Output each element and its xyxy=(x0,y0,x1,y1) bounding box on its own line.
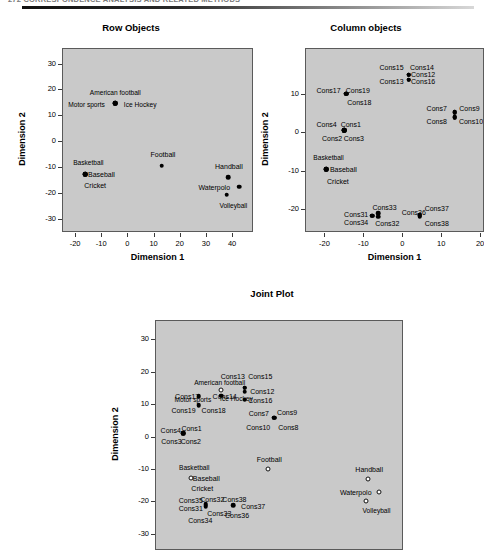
x-axis-label: Dimension 1 xyxy=(305,252,484,262)
x-tick-label: -10 xyxy=(348,239,378,248)
y-tick-mark xyxy=(151,372,155,373)
data-point xyxy=(181,431,186,436)
y-tick-mark xyxy=(58,219,62,220)
y-tick-mark xyxy=(301,132,305,133)
chart-row-objects: Row ObjectsAmerican footballIce HockeyMo… xyxy=(0,22,262,270)
data-point xyxy=(243,389,248,394)
data-point-label: Cons37 xyxy=(425,205,449,212)
data-point xyxy=(377,490,382,495)
data-point xyxy=(197,403,202,408)
data-point-label: Cons8 xyxy=(278,424,298,431)
data-point-label: Basketball xyxy=(179,464,209,471)
data-point-label: Cons10 xyxy=(246,424,270,431)
data-point-label: Cons32 xyxy=(375,220,399,227)
x-tick-mark xyxy=(75,233,76,237)
data-point xyxy=(237,184,242,189)
data-point-label: Football xyxy=(150,151,175,158)
chart-joint-plot: Joint PlotCons13Cons15American footballC… xyxy=(60,288,484,560)
y-tick-mark xyxy=(301,209,305,210)
data-point-label: Cons13 xyxy=(380,77,404,84)
data-point xyxy=(243,397,248,402)
data-point-label: Cons9 xyxy=(277,408,297,415)
data-point-label: Cons36 xyxy=(402,208,426,215)
data-point-label: Cons37 xyxy=(241,503,265,510)
y-tick-mark xyxy=(58,64,62,65)
x-tick-label: 10 xyxy=(426,239,456,248)
x-tick-mark xyxy=(324,233,325,237)
data-point-label: Cons2 xyxy=(181,438,201,445)
y-tick-label: -10 xyxy=(125,464,149,473)
y-tick-label: 10 xyxy=(32,110,56,119)
chart-title: Joint Plot xyxy=(60,288,484,299)
data-point-label: Cons19 xyxy=(346,86,370,93)
y-tick-mark xyxy=(151,404,155,405)
y-tick-mark xyxy=(151,437,155,438)
data-point-label: Cricket xyxy=(191,484,213,491)
y-tick-mark xyxy=(151,534,155,535)
data-point-label: Waterpolo xyxy=(198,183,230,190)
data-point xyxy=(366,476,371,481)
x-tick-label: 20 xyxy=(465,239,484,248)
data-point-label: Football xyxy=(257,455,282,462)
data-point-label: American football xyxy=(90,89,141,96)
data-point-label: Cons31 xyxy=(179,504,203,511)
y-tick-mark xyxy=(58,167,62,168)
x-tick-mark xyxy=(441,233,442,237)
y-tick-label: -30 xyxy=(32,214,56,223)
data-point-label: Baseball xyxy=(330,166,357,173)
y-tick-label: 30 xyxy=(32,59,56,68)
x-tick-label: 40 xyxy=(217,239,247,248)
data-point-label: Cons14 xyxy=(410,64,434,71)
data-point xyxy=(452,110,457,115)
data-point-label: Cricket xyxy=(84,181,106,188)
y-tick-label: -20 xyxy=(32,188,56,197)
data-point xyxy=(272,415,277,420)
data-point xyxy=(265,466,270,471)
y-tick-label: -20 xyxy=(275,204,299,213)
y-tick-label: 20 xyxy=(32,84,56,93)
data-point-label: Cons4 xyxy=(316,121,336,128)
x-tick-mark xyxy=(127,233,128,237)
y-tick-label: 0 xyxy=(32,136,56,145)
data-point xyxy=(452,115,457,120)
chart-title: Column objects xyxy=(248,22,484,33)
y-tick-label: -30 xyxy=(125,529,149,538)
data-point-label: Basketball xyxy=(313,155,343,162)
data-point-label: Cons18 xyxy=(202,407,226,414)
data-point xyxy=(417,215,422,220)
chart-title: Row Objects xyxy=(0,22,262,33)
data-point-label: Baseball xyxy=(193,474,220,481)
data-point xyxy=(159,164,164,169)
data-point-label: Cons9 xyxy=(459,104,479,111)
data-point-label: Cons18 xyxy=(347,99,371,106)
data-point xyxy=(224,193,229,198)
data-point xyxy=(226,175,231,180)
data-point xyxy=(370,213,375,218)
data-point xyxy=(203,504,208,509)
data-point-label: American football xyxy=(194,380,245,387)
data-point-label: Cons7 xyxy=(427,104,447,111)
data-point-label: Cons19 xyxy=(171,407,195,414)
header-rule xyxy=(22,6,474,9)
data-point-label: Cons16 xyxy=(411,77,435,84)
data-point-label: Handball xyxy=(355,465,383,472)
data-point-label: Waterpolo xyxy=(340,489,372,496)
data-point xyxy=(83,172,88,177)
y-tick-mark xyxy=(58,193,62,194)
page-header-text: 272 CORRESPONDENCE ANALYSIS AND RELATED … xyxy=(8,0,240,4)
y-tick-mark xyxy=(58,115,62,116)
x-tick-label: 0 xyxy=(387,239,417,248)
data-point-label: Cons38 xyxy=(222,496,246,503)
x-tick-mark xyxy=(101,233,102,237)
data-point-label: Cons38 xyxy=(425,219,449,226)
data-point-label: Motor sports xyxy=(68,102,105,109)
y-tick-label: -10 xyxy=(32,162,56,171)
data-point-label: Cons34 xyxy=(344,218,368,225)
data-point xyxy=(113,101,118,106)
x-tick-mark xyxy=(402,233,403,237)
x-axis-label: Dimension 1 xyxy=(62,252,253,262)
data-point-label: Cons31 xyxy=(344,210,368,217)
data-point-label: Cons10 xyxy=(459,117,483,124)
data-point-label: Cons35 xyxy=(179,497,203,504)
x-tick-mark xyxy=(480,233,481,237)
